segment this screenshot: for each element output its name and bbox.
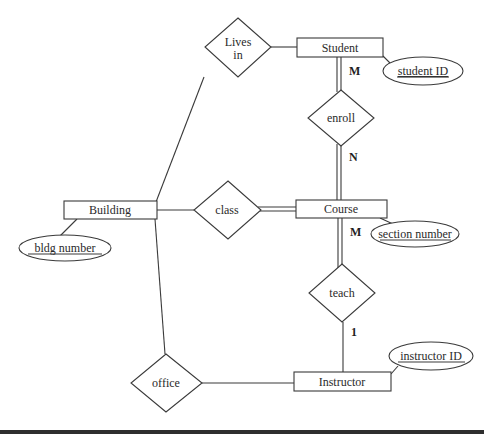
relationship-class-label: class <box>215 203 239 217</box>
attribute-section-number: section number <box>371 221 459 247</box>
entity-instructor: Instructor <box>294 372 391 391</box>
cardinality-student-enroll: M <box>349 64 360 78</box>
er-diagram: Student Building Course Instructor Lives… <box>0 0 484 437</box>
line-instructor-instructorid <box>391 366 398 374</box>
entity-course-label: Course <box>324 202 358 216</box>
relationship-office: office <box>131 354 202 412</box>
entity-building: Building <box>64 201 157 219</box>
relationship-office-label: office <box>152 376 180 390</box>
relationship-lives-in-label-2: in <box>233 48 242 62</box>
attribute-section-number-label: section number <box>378 227 452 241</box>
relationship-enroll-label: enroll <box>327 111 356 125</box>
attribute-instructor-id: instructor ID <box>389 342 473 370</box>
entity-building-label: Building <box>89 203 131 217</box>
relationship-lives-in: Lives in <box>205 18 271 77</box>
line-building-office <box>155 219 165 354</box>
attribute-student-id-label: student ID <box>398 64 449 78</box>
relationship-class: class <box>194 181 261 239</box>
relationship-teach-label: teach <box>329 286 354 300</box>
relationship-teach: teach <box>309 264 375 322</box>
attribute-bldg-number: bldg number <box>19 235 111 261</box>
cardinality-teach-instructor: 1 <box>351 325 357 339</box>
cardinality-course-teach: M <box>350 225 361 239</box>
entity-instructor-label: Instructor <box>319 375 366 389</box>
attribute-instructor-id-label: instructor ID <box>400 349 462 363</box>
attribute-student-id: student ID <box>383 57 463 85</box>
relationship-lives-in-label-1: Lives <box>225 35 252 49</box>
entity-course: Course <box>296 200 387 218</box>
bottom-rule <box>0 430 484 434</box>
entity-student-label: Student <box>322 41 359 55</box>
line-student-studentid <box>383 56 390 63</box>
attribute-bldg-number-label: bldg number <box>35 241 96 255</box>
entity-student: Student <box>297 38 383 57</box>
relationship-enroll: enroll <box>308 90 374 146</box>
line-building-bldgnumber <box>60 219 77 236</box>
cardinality-enroll-course: N <box>349 150 358 164</box>
line-livesin-building <box>156 77 204 202</box>
